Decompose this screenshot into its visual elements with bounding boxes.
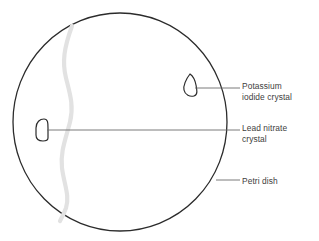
label-potassium-iodide-crystal: Potassium iodide crystal [242, 81, 292, 102]
label-lead-nitrate-crystal: Lead nitrate crystal [242, 123, 287, 144]
diagram-canvas [0, 0, 319, 241]
petri-dish-diagram: Potassium iodide crystal Lead nitrate cr… [0, 0, 319, 241]
lead-nitrate-crystal [36, 119, 48, 141]
label-petri-dish: Petri dish [242, 176, 278, 187]
